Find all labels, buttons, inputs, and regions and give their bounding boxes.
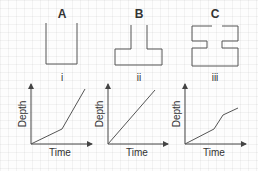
roman-label-i: i (61, 72, 63, 83)
diagram-svg: A i Depth Time B ii Depth Time C iii Dep… (0, 0, 258, 171)
x-label-i: Time (49, 147, 71, 158)
graph-line-i (31, 89, 85, 144)
label-a: A (58, 7, 67, 21)
label-b: B (135, 7, 144, 21)
container-shape-a (46, 23, 77, 64)
graph-line-iii (185, 108, 238, 144)
roman-label-ii: ii (137, 72, 141, 83)
diagram-canvas: A i Depth Time B ii Depth Time C iii Dep… (0, 0, 258, 171)
x-label-iii: Time (203, 147, 225, 158)
panel-b: B ii Depth Time (94, 7, 168, 158)
panel-a: A i Depth Time (17, 7, 92, 158)
y-label-ii: Depth (94, 101, 105, 128)
y-label-i: Depth (17, 101, 28, 128)
x-label-ii: Time (126, 147, 148, 158)
panel-c: C iii Depth Time (171, 7, 246, 158)
roman-label-iii: iii (212, 72, 219, 83)
container-shape-b (115, 25, 162, 65)
y-label-iii: Depth (171, 101, 182, 128)
container-shape-c (192, 26, 238, 66)
label-c: C (211, 7, 220, 21)
graph-line-ii (108, 90, 155, 144)
